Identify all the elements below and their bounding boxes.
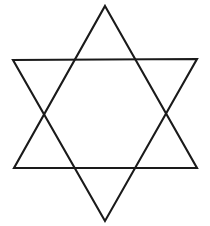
hexagram-svg [0,0,210,226]
figure-background [0,0,210,226]
hexagram-figure-canvas [0,0,210,226]
